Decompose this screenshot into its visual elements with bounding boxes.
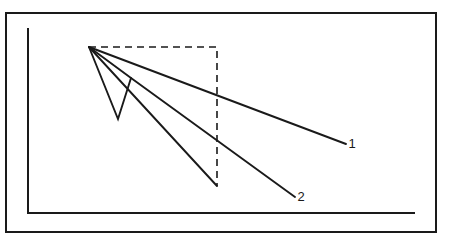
outer-border [6,13,436,232]
axis-polyline [28,28,415,213]
series-line-3 [89,47,217,186]
series-label-2: 2 [297,189,304,204]
series-labels: 12 [297,136,355,204]
outer-border-rect [6,13,436,232]
series-label-1: 1 [348,136,355,151]
line-chart: 12 [0,0,450,242]
series-line-4 [89,47,131,119]
axis-lines [28,28,415,213]
series-line-2 [89,47,295,197]
figure-container: 12 [0,0,450,242]
